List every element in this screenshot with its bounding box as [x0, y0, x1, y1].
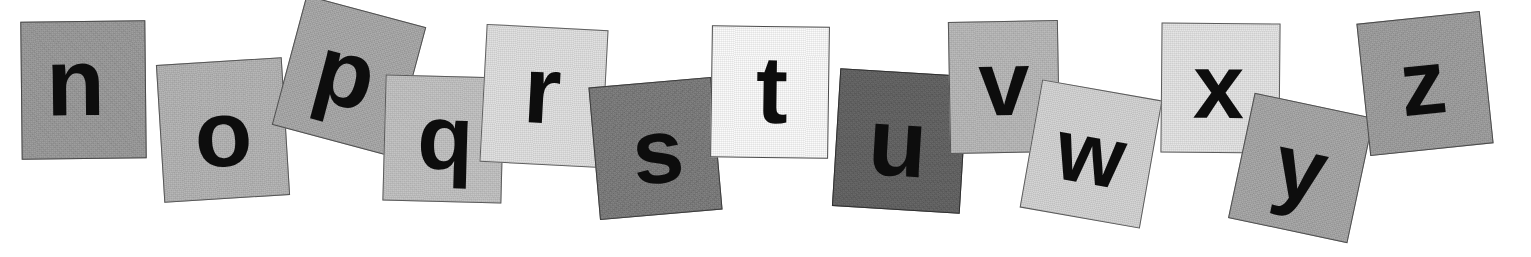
letter-glyph: x [1193, 40, 1245, 132]
letter-tiles-canvas: nopqrstuvwxyz [0, 0, 1531, 257]
letter-glyph: s [628, 102, 687, 198]
letter-glyph: u [866, 93, 930, 192]
letter-glyph: w [1050, 105, 1133, 204]
letter-glyph: t [755, 42, 788, 138]
letter-glyph: o [192, 85, 255, 182]
letter-glyph: v [978, 37, 1031, 130]
letter-tile-u: u [832, 68, 968, 214]
letter-glyph: p [305, 19, 386, 127]
letter-glyph: r [521, 41, 563, 139]
letter-tile-o: o [156, 57, 290, 202]
letter-glyph: z [1395, 34, 1450, 130]
letter-glyph: y [1266, 118, 1335, 219]
letter-glyph: q [416, 90, 475, 183]
letter-glyph: n [46, 34, 106, 131]
letter-tile-w: w [1020, 79, 1163, 228]
letter-tile-n: n [20, 20, 146, 159]
letter-tile-y: y [1228, 93, 1374, 244]
letter-tile-z: z [1356, 11, 1493, 156]
letter-tile-t: t [710, 25, 830, 159]
letter-tile-s: s [588, 77, 722, 220]
